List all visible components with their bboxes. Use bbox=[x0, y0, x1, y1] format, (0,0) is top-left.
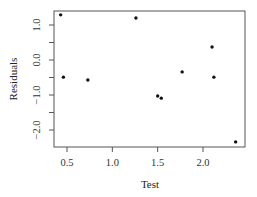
y-tick-label: −2.0 bbox=[31, 120, 42, 139]
x-axis: 0.51.01.52.0 bbox=[60, 147, 209, 168]
data-point bbox=[134, 16, 137, 19]
x-tick-label: 2.0 bbox=[196, 157, 209, 168]
x-tick-label: 1.5 bbox=[151, 157, 164, 168]
x-axis-title: Test bbox=[141, 178, 159, 190]
y-tick-label: 1.0 bbox=[31, 18, 42, 31]
data-point bbox=[59, 13, 62, 16]
data-point bbox=[212, 75, 215, 78]
y-tick-label: 0.0 bbox=[31, 53, 42, 66]
y-axis: 1.00.0−1.0−2.0 bbox=[31, 18, 54, 139]
x-tick-label: 0.5 bbox=[60, 157, 73, 168]
y-axis-title: Residuals bbox=[7, 58, 19, 101]
scatter-chart: 0.51.01.52.0 1.00.0−1.0−2.0 Test Residua… bbox=[0, 0, 257, 197]
data-points bbox=[59, 13, 237, 143]
y-tick-label: −1.0 bbox=[31, 85, 42, 104]
plot-frame bbox=[54, 11, 245, 147]
data-point bbox=[86, 78, 89, 81]
x-tick-label: 1.0 bbox=[106, 157, 119, 168]
data-point bbox=[180, 70, 183, 73]
data-point bbox=[210, 45, 213, 48]
data-point bbox=[160, 96, 163, 99]
data-point bbox=[156, 94, 159, 97]
data-point bbox=[62, 75, 65, 78]
data-point bbox=[234, 140, 237, 143]
